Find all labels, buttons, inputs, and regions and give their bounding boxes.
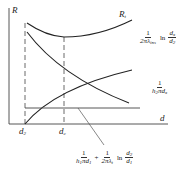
convection-resistance-curve (27, 32, 129, 103)
total-resistance-curve (27, 20, 132, 37)
total-resistance-label: Rt (119, 10, 126, 19)
dc-marker-label: dc (59, 127, 66, 136)
leader-line (78, 108, 104, 145)
d2-marker-label: d2 (19, 127, 26, 136)
x-axis-label: d (160, 114, 165, 123)
y-axis-label: R (12, 6, 18, 15)
convection-resistance-label: 1h2πdx (150, 80, 169, 96)
constant-resistance-label: 1h1πd1 + 12πλt ln d2d1 (74, 150, 134, 166)
insulation-resistance-label: 12πλins ln dxd2 (138, 30, 177, 46)
